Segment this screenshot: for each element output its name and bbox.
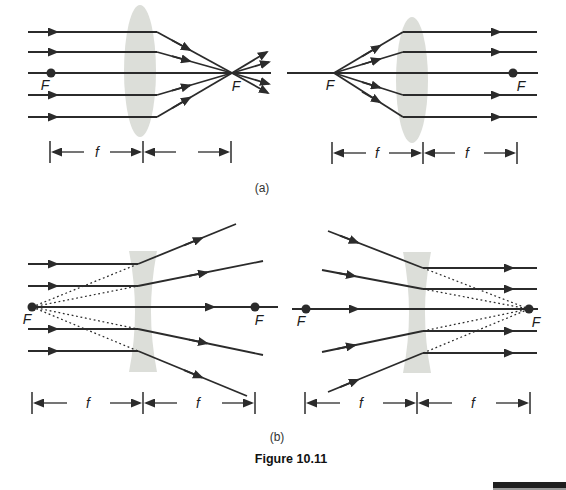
footer-bar-rect — [493, 482, 566, 488]
focal-point-label: F — [532, 314, 542, 330]
convex-lens-shape — [396, 17, 428, 143]
light-ray — [157, 52, 232, 73]
focal-length-dimension: f f — [332, 142, 517, 164]
panel-a-right-converging-lens: F F f f — [287, 17, 538, 164]
ray-arrowhead — [172, 85, 190, 90]
diverging-refracted-rays — [138, 224, 263, 396]
focal-point-label: F — [517, 78, 527, 94]
panel-b-caption: (b) — [270, 430, 285, 444]
virtual-ray — [32, 286, 138, 307]
ray-arrowhead — [184, 370, 202, 378]
ray-arrowhead — [362, 92, 380, 103]
rays-from-focus — [334, 32, 403, 117]
focal-length-label: f — [471, 395, 477, 411]
focal-point-label: F — [326, 77, 336, 93]
panel-a-caption: (a) — [255, 181, 270, 195]
refracted-converging-rays — [157, 32, 232, 117]
lens-ray-diagram: F F f — [0, 0, 566, 490]
ray-arrowhead — [337, 273, 355, 276]
focal-length-label: f — [95, 144, 101, 160]
focal-length-dimension: f — [50, 141, 231, 163]
ray-arrowhead — [172, 56, 190, 61]
focal-length-label: f — [375, 145, 381, 161]
focal-length-dimension: f f — [305, 392, 530, 414]
footer-bar — [493, 482, 566, 490]
ray-arrowhead — [340, 380, 358, 387]
ray-arrowhead — [337, 345, 355, 349]
ray-arrowhead — [184, 238, 202, 245]
focal-point-label: F — [41, 77, 51, 93]
ray-arrowhead — [362, 46, 380, 57]
focal-length-dimension: f f — [32, 392, 255, 414]
virtual-ray — [423, 309, 529, 331]
focal-point-dot — [525, 305, 534, 314]
light-ray — [157, 73, 232, 117]
focal-point-dot — [509, 69, 518, 78]
focal-point-label: F — [232, 78, 242, 94]
focal-point-dot — [251, 303, 260, 312]
ray-arrowhead — [232, 52, 267, 73]
panel-b-left-diverging-lens: F F f f — [23, 224, 278, 414]
focal-point-label: F — [297, 313, 307, 329]
virtual-ray-extensions — [423, 268, 529, 353]
ray-arrowhead — [172, 40, 190, 50]
ray-arrowhead — [362, 82, 380, 88]
focal-point-label: F — [255, 312, 265, 328]
focal-length-label: f — [196, 395, 202, 411]
panel-b-right-diverging-lens: F F f f — [292, 231, 542, 414]
focal-point-label: F — [23, 311, 33, 327]
figure-caption: Figure 10.11 — [255, 452, 327, 466]
virtual-ray — [423, 289, 529, 309]
ray-arrowhead — [189, 340, 207, 344]
panel-a-left-converging-lens: F F f — [28, 5, 271, 163]
light-ray — [157, 32, 232, 73]
ray-arrowhead — [172, 98, 190, 109]
ray-arrowhead — [189, 272, 207, 276]
virtual-ray — [32, 307, 138, 329]
incoming-parallel-rays — [28, 264, 278, 351]
focal-length-label: f — [86, 395, 92, 411]
ray-arrowhead — [362, 59, 380, 65]
light-ray — [157, 73, 232, 95]
figure-page: F F f — [0, 0, 566, 490]
focal-length-label: f — [359, 395, 365, 411]
focal-length-label: f — [465, 145, 471, 161]
ray-arrowhead — [232, 62, 269, 73]
ray-arrowhead — [340, 236, 358, 243]
